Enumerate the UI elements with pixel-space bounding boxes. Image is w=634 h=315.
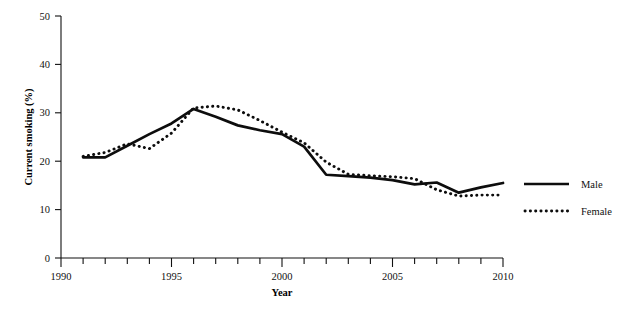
x-axis-title: Year (272, 287, 293, 298)
x-tick-label-1990: 1990 (51, 271, 72, 282)
smoking-prevalence-line-chart: 01020304050 Current smoking (%) 19901995… (0, 0, 634, 315)
y-axis-ticks (55, 16, 61, 258)
y-tick-label-30: 30 (40, 107, 51, 118)
x-axis-tick-labels: 19901995200020052010 (51, 271, 514, 282)
y-tick-label-40: 40 (40, 59, 51, 70)
x-tick-label-2005: 2005 (382, 271, 403, 282)
x-axis: 19901995200020052010 Year (51, 258, 514, 298)
x-tick-label-2000: 2000 (272, 271, 293, 282)
x-tick-label-2010: 2010 (493, 271, 514, 282)
x-tick-label-1995: 1995 (161, 271, 182, 282)
series-line-male (83, 109, 503, 193)
y-tick-label-10: 10 (40, 204, 51, 215)
y-tick-label-20: 20 (40, 156, 51, 167)
y-tick-label-0: 0 (45, 253, 50, 264)
chart-canvas: 01020304050 Current smoking (%) 19901995… (0, 0, 634, 315)
y-axis-tick-labels: 01020304050 (40, 11, 51, 264)
chart-legend: Male Female (524, 179, 612, 217)
y-axis: 01020304050 Current smoking (%) (23, 11, 61, 264)
y-axis-title: Current smoking (%) (23, 88, 35, 186)
plot-series-group (83, 106, 503, 196)
legend-label-female: Female (581, 206, 612, 217)
y-tick-label-50: 50 (40, 11, 51, 22)
legend-label-male: Male (581, 179, 603, 190)
